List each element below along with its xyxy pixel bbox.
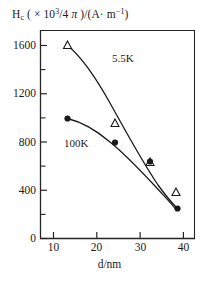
y-tick-label-1200: 1200 — [0, 87, 36, 99]
data-point-triangle — [111, 119, 119, 127]
y-tick-label-800: 800 — [0, 136, 36, 148]
series-annotation-5-5k: 5.5K — [112, 52, 134, 64]
x-tick-label-40: 40 — [169, 241, 198, 253]
data-point-circle — [147, 158, 153, 164]
x-axis-major-ticks — [54, 232, 184, 239]
series-100k-markers — [64, 115, 180, 211]
curve-100k — [68, 119, 177, 210]
x-axis-label: d/nm — [0, 258, 219, 270]
x-tick-label-30: 30 — [126, 241, 155, 253]
series-5-5k-markers — [64, 41, 181, 196]
data-point-circle — [64, 115, 70, 121]
data-point-circle — [174, 205, 180, 211]
y-tick-label-0: 0 — [0, 232, 36, 244]
data-point-triangle — [64, 41, 72, 49]
data-point-triangle — [172, 188, 180, 196]
y-axis-major-ticks — [41, 46, 48, 239]
curve-5-5k — [68, 46, 178, 209]
series-annotation-100k: 100K — [64, 137, 88, 149]
x-tick-label-20: 20 — [82, 241, 111, 253]
x-tick-label-10: 10 — [39, 241, 68, 253]
chart-figure: Hc ( × 103/4 π )/(A· m−1) — [0, 0, 219, 282]
y-tick-label-400: 400 — [0, 184, 36, 196]
y-tick-label-1600: 1600 — [0, 39, 36, 51]
data-point-circle — [112, 139, 118, 145]
